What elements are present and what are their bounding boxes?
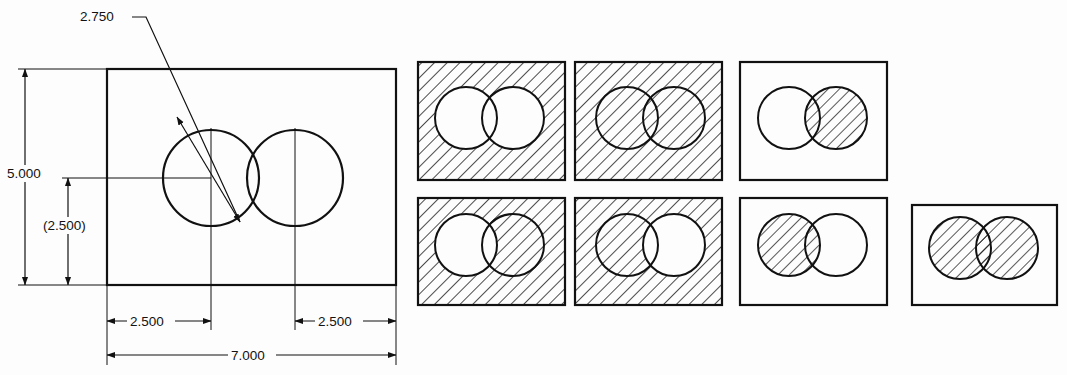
variant-cell-r2c1	[418, 198, 565, 305]
dim-label-center-height: (2.500)	[43, 218, 86, 233]
dim-label-left-circle-x: 2.500	[130, 314, 164, 329]
dim-label-overall-height: 5.000	[7, 166, 41, 181]
variant-cell-r2c2	[575, 198, 722, 305]
variant-cell-r2c4	[912, 205, 1057, 305]
dim-label-diameter: 2.750	[80, 9, 114, 24]
dim-label-overall-width: 7.000	[231, 348, 265, 363]
variant-cell-r2c3	[740, 198, 887, 305]
technical-drawing-sheet: 5.000 (2.500) 2.750 2.500 2.500 7.000	[0, 0, 1067, 375]
variant-cell-r1c3	[740, 62, 887, 180]
variant-cell-r1c2	[575, 62, 722, 180]
dim-label-right-circle-x: 2.500	[318, 314, 352, 329]
variant-cell-r1c1	[418, 62, 565, 180]
